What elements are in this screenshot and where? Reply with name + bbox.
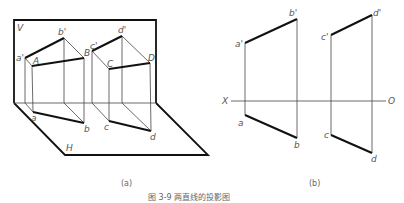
label-a-prime: a' bbox=[235, 39, 243, 49]
line-c-prime-d-prime bbox=[331, 15, 372, 35]
label-C: C bbox=[107, 59, 114, 69]
label-c-prime: c' bbox=[321, 32, 328, 42]
line-ab bbox=[33, 112, 84, 123]
projector-D-d bbox=[150, 63, 151, 131]
label-o-axis: O bbox=[388, 96, 395, 106]
connector-b-prime-B bbox=[64, 38, 84, 58]
label-A: A bbox=[32, 56, 39, 66]
label-d-prime: d' bbox=[118, 25, 126, 35]
label-b: b bbox=[294, 140, 300, 150]
label-c: c bbox=[104, 122, 109, 132]
connector-c-base bbox=[92, 103, 109, 121]
line-cd bbox=[109, 121, 151, 131]
caption-a: (a) bbox=[121, 179, 132, 188]
label-x-axis: X bbox=[221, 96, 229, 106]
figure-a: V H a' A b' B c' C d' D a b c d (a) bbox=[14, 20, 208, 188]
label-b-prime: b' bbox=[58, 27, 66, 37]
line-AB bbox=[32, 58, 84, 66]
label-v-plane: V bbox=[17, 23, 24, 33]
label-d: d bbox=[371, 154, 377, 164]
label-c: c bbox=[324, 130, 329, 140]
line-a-prime-b-prime bbox=[245, 19, 297, 43]
connector-a-base bbox=[25, 103, 33, 112]
line-CD bbox=[109, 63, 150, 69]
label-h-plane: H bbox=[66, 143, 73, 153]
projector-A-a bbox=[32, 66, 33, 112]
h-plane-outline bbox=[14, 103, 208, 155]
label-d: d bbox=[150, 132, 156, 142]
label-c-prime: c' bbox=[90, 41, 97, 51]
line-cd bbox=[331, 135, 372, 153]
connector-a-prime-A bbox=[25, 58, 32, 66]
label-b-prime: b' bbox=[289, 8, 297, 18]
label-a: a bbox=[238, 118, 244, 128]
figure-b: X O a' b' c' d' a b c d (b) bbox=[221, 8, 395, 188]
line-ab bbox=[245, 115, 297, 138]
label-D: D bbox=[148, 53, 155, 63]
label-a-prime: a' bbox=[16, 53, 24, 63]
label-b: b bbox=[84, 124, 90, 134]
label-a: a bbox=[31, 113, 37, 123]
line-a-prime-b-prime bbox=[25, 38, 64, 58]
diagram-canvas: V H a' A b' B c' C d' D a b c d (a) X O … bbox=[0, 0, 404, 203]
figure-caption: 图 3-9 两直线的投影图 bbox=[148, 192, 230, 202]
connector-d-prime-D bbox=[122, 36, 150, 63]
caption-b: (b) bbox=[309, 179, 320, 188]
label-d-prime: d' bbox=[373, 8, 381, 18]
